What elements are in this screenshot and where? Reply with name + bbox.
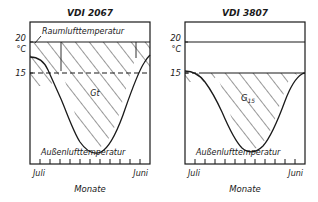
room-air-temperature-label: Raumlufttemperatur bbox=[42, 27, 125, 36]
area-label-gt: Gt bbox=[90, 89, 100, 98]
ytick-label-15: 15 bbox=[170, 68, 181, 78]
xtick-label-end: Juni bbox=[131, 169, 149, 178]
x-axis-label: Monate bbox=[74, 184, 106, 194]
ytick-label-15: 15 bbox=[15, 68, 26, 78]
outdoor-air-temperature-label: Außenlufttemperatur bbox=[195, 148, 281, 157]
panel-title: VDI 3807 bbox=[222, 8, 269, 18]
xtick-label-start: Juli bbox=[186, 169, 201, 178]
xtick-label-end: Juni bbox=[286, 169, 304, 178]
y-axis-unit-label: °C bbox=[16, 45, 26, 54]
area-label-g15-subscript: 15 bbox=[247, 97, 255, 104]
outdoor-air-temperature-label: Außenlufttemperatur bbox=[40, 148, 126, 157]
panel-title: VDI 2067 bbox=[67, 8, 114, 18]
ytick-label-20: 20 bbox=[15, 33, 26, 43]
xtick-label-start: Juli bbox=[31, 169, 46, 178]
two-panel-degree-day-figure: VDI 2067 20 °C 15 Raumlufttemperatur Gt … bbox=[0, 0, 318, 202]
x-axis-label: Monate bbox=[229, 184, 261, 194]
ytick-label-20: 20 bbox=[170, 33, 181, 43]
y-axis-unit-label: °C bbox=[171, 45, 181, 54]
